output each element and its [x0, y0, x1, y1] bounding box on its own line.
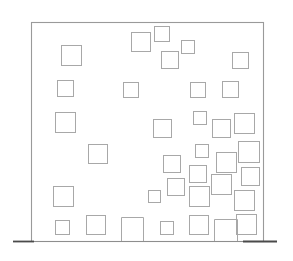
window-opening: [162, 52, 179, 69]
window-opening: [217, 153, 237, 173]
window-opening: [182, 41, 195, 54]
window-opening: [239, 142, 260, 163]
elevation-svg: [0, 0, 293, 261]
window-opening: [213, 120, 231, 138]
window-opening: [190, 187, 210, 207]
window-opening: [190, 166, 207, 183]
window-opening: [194, 112, 207, 125]
window-opening: [54, 187, 74, 207]
window-opening: [132, 33, 151, 52]
window-opening: [233, 53, 249, 69]
window-opening: [237, 215, 257, 235]
window-opening: [89, 145, 108, 164]
window-opening: [196, 145, 209, 158]
window-opening: [87, 216, 106, 235]
window-opening: [62, 46, 82, 66]
window-opening: [223, 82, 239, 98]
window-opening: [235, 114, 255, 134]
window-opening: [164, 156, 181, 173]
window-opening: [212, 175, 232, 195]
window-opening: [58, 81, 74, 97]
window-opening: [56, 221, 70, 235]
window-opening: [56, 113, 76, 133]
window-opening: [235, 191, 255, 211]
window-opening: [168, 179, 185, 196]
window-opening: [161, 222, 174, 235]
window-opening: [190, 216, 209, 235]
window-opening: [124, 83, 139, 98]
elevation-drawing-canvas: [0, 0, 293, 261]
window-opening: [191, 83, 206, 98]
window-opening: [242, 168, 260, 186]
window-opening: [155, 27, 170, 42]
window-opening: [154, 120, 172, 138]
window-opening: [149, 191, 161, 203]
